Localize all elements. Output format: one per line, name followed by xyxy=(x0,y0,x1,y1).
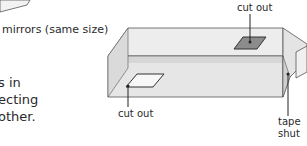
body-text-line-1: s in xyxy=(0,74,21,91)
label-shut: shut xyxy=(278,128,300,140)
label-cut-out-bottom: cut out xyxy=(118,108,153,120)
body-text-line-2: ecting xyxy=(0,91,38,108)
tape-flap xyxy=(296,46,307,78)
body-text-line-3: other. xyxy=(0,108,36,125)
label-tape: tape xyxy=(278,116,301,128)
mirror-fragment xyxy=(0,0,30,12)
label-mirrors: mirrors (same size) xyxy=(2,24,108,36)
periscope-diagram xyxy=(0,0,307,146)
label-cut-out-top: cut out xyxy=(237,2,272,14)
